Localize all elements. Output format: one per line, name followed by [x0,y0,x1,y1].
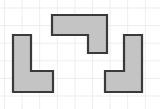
shapes-svg [0,0,160,109]
figure-canvas [0,0,160,109]
